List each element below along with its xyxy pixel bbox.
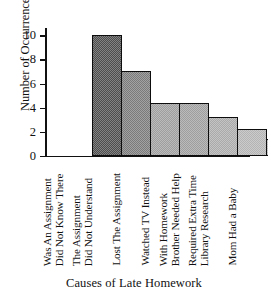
bar: [150, 103, 180, 156]
bar: [237, 129, 267, 156]
x-tick-label-line: Did Not Understand: [82, 178, 94, 266]
x-tick-label-line: Lost The Assignment: [111, 173, 123, 266]
x-tick-label-line: The Assignment: [71, 178, 83, 266]
bar: [92, 35, 122, 156]
x-tick-label-line: Mom Had a Baby: [228, 188, 240, 266]
x-tick-label-line: Was An Assignment: [41, 174, 53, 266]
y-tick: [40, 59, 45, 60]
bar-chart: Number of Occurrences (Period: 7 Weeks) …: [0, 0, 268, 303]
plot-area: [46, 28, 250, 156]
y-tick-label: 4: [14, 102, 36, 115]
y-tick-label: 10: [14, 29, 36, 42]
x-tick-label-line: Brother Needed Help: [170, 173, 182, 266]
x-tick-label-line: With Homework: [158, 173, 170, 266]
y-tick-label: 8: [14, 53, 36, 66]
y-tick: [40, 108, 45, 109]
y-tick: [40, 35, 45, 36]
x-tick-label-line: Did Not Know There: [53, 174, 65, 266]
x-axis-tick-labels: Did Not Know ThereWas An AssignmentDid N…: [46, 158, 250, 266]
y-tick-label: 0: [14, 150, 36, 163]
y-tick: [40, 84, 45, 85]
bar-series: [92, 28, 268, 156]
y-tick: [40, 132, 45, 133]
x-tick-label-line: Watched TV Instead: [140, 177, 152, 266]
x-axis-title: Causes of Late Homework: [0, 276, 268, 291]
bar: [121, 71, 151, 156]
bar: [208, 117, 238, 156]
y-tick: [40, 156, 45, 157]
y-tick-label: 2: [14, 126, 36, 139]
y-tick-label: 6: [14, 78, 36, 91]
x-tick-label-line: Library Research: [199, 175, 211, 266]
bar: [179, 103, 209, 156]
